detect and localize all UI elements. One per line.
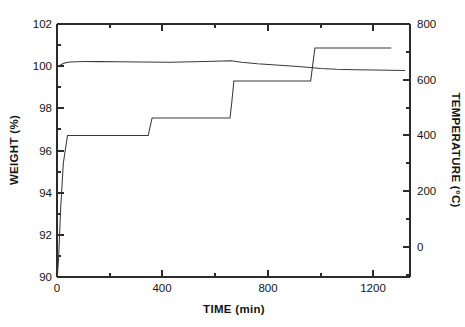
right-axis-major-ticks: [403, 24, 410, 247]
bottom-tick-label-400: 400: [152, 282, 171, 294]
right-tick-label-200: 200: [417, 185, 436, 197]
left-tick-label-102: 102: [33, 18, 52, 30]
series-line-temperature: [58, 48, 392, 275]
bottom-tick-label-800: 800: [258, 282, 277, 294]
x-axis-title: TIME (min): [203, 303, 265, 315]
bottom-tick-label-0: 0: [54, 282, 60, 294]
left-tick-label-90: 90: [39, 271, 52, 283]
y2-axis-title: TEMPERATURE (°C): [450, 92, 462, 207]
left-tick-label-92: 92: [39, 229, 52, 241]
left-axis-major-ticks: [57, 24, 64, 277]
bottom-axis-tick-labels: 0 400 800 1200: [54, 282, 386, 294]
left-tick-label-100: 100: [33, 60, 52, 72]
series-line-weight: [59, 61, 406, 71]
chart-canvas: 102 100 98 96 94 92 90: [0, 0, 465, 327]
left-axis-tick-labels: 102 100 98 96 94 92 90: [33, 18, 53, 283]
bottom-tick-label-1200: 1200: [360, 282, 386, 294]
top-axis-ticks: [57, 24, 373, 31]
left-tick-label-94: 94: [39, 187, 52, 199]
right-tick-label-0: 0: [417, 241, 423, 253]
left-tick-label-96: 96: [39, 145, 52, 157]
right-tick-label-600: 600: [417, 74, 436, 86]
right-tick-label-800: 800: [417, 18, 436, 30]
right-axis-tick-labels: 800 600 400 200 0: [417, 18, 436, 253]
left-tick-label-98: 98: [39, 102, 52, 114]
y-axis-title: WEIGHT (%): [8, 115, 20, 185]
right-tick-label-400: 400: [417, 129, 436, 141]
figure-container: 102 100 98 96 94 92 90: [0, 0, 465, 327]
